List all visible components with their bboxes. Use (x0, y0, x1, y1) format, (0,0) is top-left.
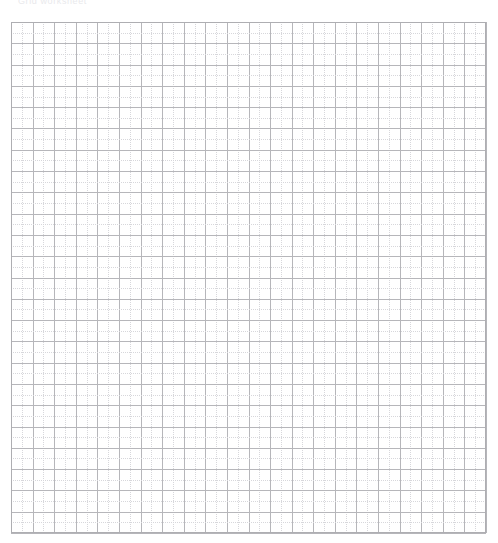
grid-line-major-horizontal (11, 469, 486, 470)
grid-line-minor-horizontal (11, 97, 486, 98)
grid-line-minor-horizontal (11, 118, 486, 119)
grid-line-major-horizontal (11, 256, 486, 257)
grid-line-minor-vertical (216, 22, 217, 533)
grid-line-minor-horizontal (11, 203, 486, 204)
grid-line-major-vertical (378, 22, 379, 533)
grid-line-minor-horizontal (11, 437, 486, 438)
grid-line-major-vertical (292, 22, 293, 533)
grid-line-major-horizontal (11, 341, 486, 342)
grid-line-major-vertical (54, 22, 55, 533)
grid-line-major-horizontal (11, 65, 486, 66)
grid-line-major-vertical (249, 22, 250, 533)
grid-line-major-horizontal (11, 171, 486, 172)
grid-line-minor-horizontal (11, 522, 486, 523)
grid-line-minor-horizontal (11, 54, 486, 55)
grid-line-major-vertical (335, 22, 336, 533)
grid-line-minor-horizontal (11, 501, 486, 502)
grid-line-major-horizontal (11, 128, 486, 129)
grid-line-minor-horizontal (11, 331, 486, 332)
grid-line-minor-vertical (108, 22, 109, 533)
grid-line-major-horizontal (11, 192, 486, 193)
grid-line-minor-vertical (389, 22, 390, 533)
grid-line-minor-horizontal (11, 33, 486, 34)
grid-line-major-vertical (184, 22, 185, 533)
page-title: Grid worksheet (18, 0, 318, 8)
grid-line-minor-horizontal (11, 288, 486, 289)
grid-line-major-vertical (76, 22, 77, 533)
grid-line-major-vertical (97, 22, 98, 533)
grid-line-major-horizontal (11, 320, 486, 321)
grid-line-major-horizontal (11, 405, 486, 406)
grid-line-major-horizontal (11, 363, 486, 364)
grid-line-minor-horizontal (11, 480, 486, 481)
grid-line-major-horizontal (11, 107, 486, 108)
grid-line-major-vertical (356, 22, 357, 533)
grid-line-major-vertical (227, 22, 228, 533)
grid-line-major-horizontal (11, 427, 486, 428)
grid-line-minor-horizontal (11, 352, 486, 353)
grid-line-minor-horizontal (11, 309, 486, 310)
grid-line-minor-vertical (324, 22, 325, 533)
grid-line-major-horizontal (11, 512, 486, 513)
grid-line-minor-vertical (346, 22, 347, 533)
grid-line-minor-vertical (130, 22, 131, 533)
grid-line-minor-vertical (238, 22, 239, 533)
grid-line-major-vertical (313, 22, 314, 533)
grid-line-minor-vertical (22, 22, 23, 533)
grid-line-minor-vertical (302, 22, 303, 533)
grid-line-major-horizontal (11, 86, 486, 87)
grid-sheet[interactable] (11, 22, 486, 533)
grid-line-minor-vertical (87, 22, 88, 533)
grid-line-major-horizontal (11, 22, 486, 23)
grid-line-minor-horizontal (11, 224, 486, 225)
grid-line-minor-horizontal (11, 373, 486, 374)
grid-line-major-vertical (443, 22, 444, 533)
grid-line-minor-horizontal (11, 458, 486, 459)
grid-line-minor-vertical (259, 22, 260, 533)
page-root: Grid worksheet (0, 0, 498, 543)
grid-line-minor-horizontal (11, 267, 486, 268)
grid-line-minor-horizontal (11, 395, 486, 396)
grid-line-minor-vertical (195, 22, 196, 533)
grid-line-major-horizontal (11, 235, 486, 236)
grid-line-major-horizontal (11, 43, 486, 44)
grid-line-minor-vertical (475, 22, 476, 533)
grid-line-minor-horizontal (11, 246, 486, 247)
grid-line-minor-horizontal (11, 160, 486, 161)
grid-line-minor-vertical (173, 22, 174, 533)
grid-line-minor-vertical (454, 22, 455, 533)
grid-line-major-vertical (119, 22, 120, 533)
grid-line-minor-vertical (151, 22, 152, 533)
grid-line-major-vertical (400, 22, 401, 533)
grid-line-major-vertical (486, 22, 487, 533)
grid-border (11, 22, 486, 533)
grid-line-major-vertical (205, 22, 206, 533)
grid-line-minor-horizontal (11, 416, 486, 417)
grid-line-minor-vertical (410, 22, 411, 533)
grid-line-minor-vertical (367, 22, 368, 533)
grid-line-major-horizontal (11, 299, 486, 300)
grid-line-major-vertical (141, 22, 142, 533)
grid-line-major-horizontal (11, 490, 486, 491)
grid-line-minor-vertical (432, 22, 433, 533)
grid-line-major-vertical (11, 22, 12, 533)
grid-line-minor-horizontal (11, 139, 486, 140)
grid-line-major-vertical (421, 22, 422, 533)
grid-line-minor-horizontal (11, 75, 486, 76)
grid-line-minor-horizontal (11, 182, 486, 183)
grid-line-major-vertical (33, 22, 34, 533)
grid-line-major-vertical (464, 22, 465, 533)
grid-line-major-horizontal (11, 214, 486, 215)
grid-line-minor-vertical (43, 22, 44, 533)
grid-line-major-horizontal (11, 150, 486, 151)
grid-line-major-horizontal (11, 448, 486, 449)
grid-line-major-vertical (270, 22, 271, 533)
grid-line-major-horizontal (11, 384, 486, 385)
grid-line-minor-vertical (281, 22, 282, 533)
grid-line-major-vertical (162, 22, 163, 533)
grid-line-major-horizontal (11, 533, 486, 534)
grid-line-minor-vertical (65, 22, 66, 533)
grid-line-major-horizontal (11, 278, 486, 279)
